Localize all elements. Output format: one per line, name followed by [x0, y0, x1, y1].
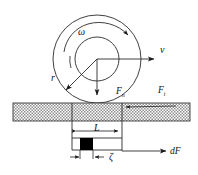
velocity-label: v: [160, 45, 164, 55]
radius-arrow: [66, 59, 97, 90]
physics-figure: ω v r Fn Ft L ζ dF: [0, 0, 198, 175]
black-element-block: [80, 138, 93, 150]
contact-length-label: L: [94, 123, 100, 133]
normal-force-subscript: n: [122, 92, 125, 98]
normal-force-label: Fn: [116, 87, 125, 99]
hatched-surface-bar: [13, 103, 190, 121]
differential-force-label: dF: [170, 147, 181, 157]
tangential-force-label: Ft: [158, 86, 165, 98]
radius-label: r: [51, 73, 55, 83]
zeta-label: ζ: [109, 152, 113, 162]
figure-canvas: [0, 0, 198, 175]
omega-spiral-arc-inner: [70, 56, 71, 68]
omega-label: ω: [78, 27, 85, 37]
tangential-force-subscript: t: [164, 91, 166, 97]
